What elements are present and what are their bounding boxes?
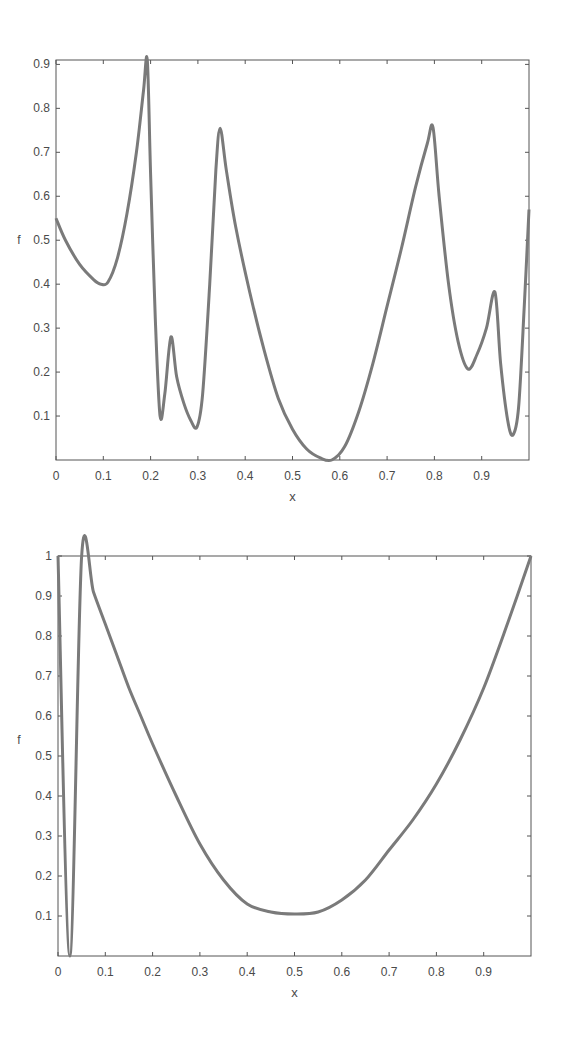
y-tick-label: 0.9 <box>35 589 52 603</box>
x-tick-label: 0.4 <box>237 469 254 483</box>
y-tick-label: 0.4 <box>33 277 50 291</box>
y-tick-label: 0.6 <box>33 189 50 203</box>
y-tick-label: 1 <box>45 549 52 563</box>
data-line <box>56 57 529 461</box>
y-axis-label: f <box>17 733 21 747</box>
x-tick-label: 0.8 <box>428 965 445 979</box>
y-tick-label: 0.4 <box>35 789 52 803</box>
x-tick-label: 0 <box>55 965 62 979</box>
y-tick-label: 0.5 <box>35 749 52 763</box>
x-tick-label: 0.9 <box>475 965 492 979</box>
x-axis-label: x <box>291 985 298 1000</box>
y-tick-label: 0.7 <box>33 145 50 159</box>
y-tick-label: 0.8 <box>33 101 50 115</box>
x-tick-label: 0 <box>53 469 60 483</box>
plot-area-top: 00.10.20.30.40.50.60.70.80.90.10.20.30.4… <box>0 0 563 520</box>
y-tick-label: 0.1 <box>35 909 52 923</box>
x-tick-label: 0.2 <box>144 965 161 979</box>
data-line <box>58 536 531 956</box>
x-tick-label: 0.6 <box>331 469 348 483</box>
x-tick-label: 0.3 <box>190 469 207 483</box>
y-tick-label: 0.5 <box>33 233 50 247</box>
x-tick-label: 0.9 <box>473 469 490 483</box>
x-tick-label: 0.1 <box>95 469 112 483</box>
y-tick-label: 0.3 <box>33 321 50 335</box>
y-tick-label: 0.9 <box>33 57 50 71</box>
y-tick-label: 0.2 <box>33 365 50 379</box>
y-tick-label: 0.7 <box>35 669 52 683</box>
y-tick-label: 0.6 <box>35 709 52 723</box>
x-tick-label: 0.2 <box>142 469 159 483</box>
y-tick-label: 0.8 <box>35 629 52 643</box>
y-tick-label: 0.1 <box>33 409 50 423</box>
x-tick-label: 0.1 <box>97 965 114 979</box>
x-tick-label: 0.6 <box>333 965 350 979</box>
x-tick-label: 0.3 <box>192 965 209 979</box>
x-tick-label: 0.5 <box>286 965 303 979</box>
x-axis-label: x <box>289 489 296 504</box>
axes-frame <box>56 60 529 460</box>
y-tick-label: 0.3 <box>35 829 52 843</box>
axes-frame <box>58 556 531 956</box>
x-tick-label: 0.7 <box>379 469 396 483</box>
x-tick-label: 0.4 <box>239 965 256 979</box>
chart-top: 00.10.20.30.40.50.60.70.80.90.10.20.30.4… <box>0 0 563 520</box>
plot-area-bottom: 00.10.20.30.40.50.60.70.80.90.10.20.30.4… <box>0 520 563 1040</box>
x-tick-label: 0.5 <box>284 469 301 483</box>
chart-bottom: 00.10.20.30.40.50.60.70.80.90.10.20.30.4… <box>0 520 563 1040</box>
y-tick-label: 0.2 <box>35 869 52 883</box>
x-tick-label: 0.7 <box>381 965 398 979</box>
y-axis-label: f <box>17 233 21 247</box>
x-tick-label: 0.8 <box>426 469 443 483</box>
